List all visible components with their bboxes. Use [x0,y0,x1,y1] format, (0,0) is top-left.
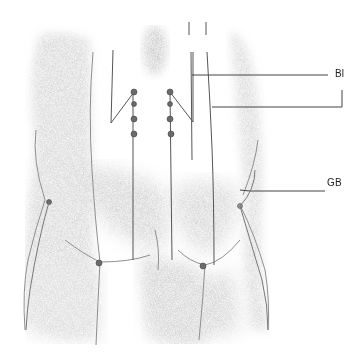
anatomical-illustration [0,0,364,360]
label-bl: Bl [335,68,344,79]
body-shading [25,25,270,343]
label-gb: GB [327,177,342,188]
leader-lines [192,75,342,191]
